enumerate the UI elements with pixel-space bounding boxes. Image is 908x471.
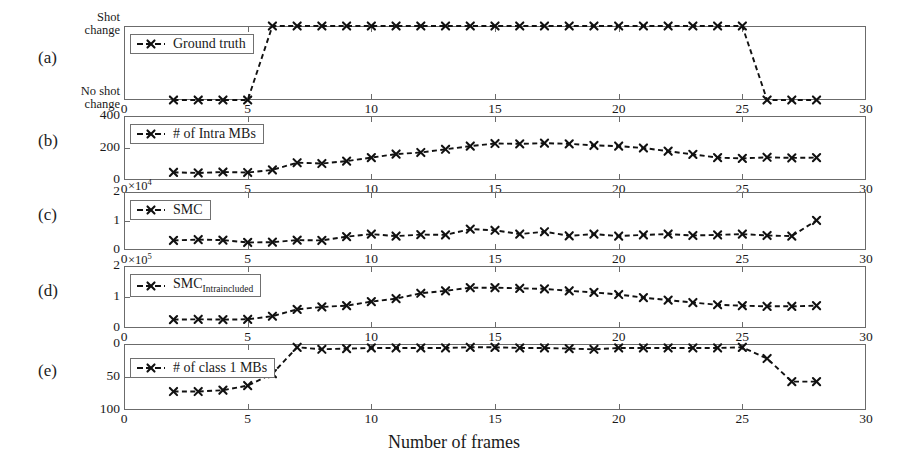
x-tickmark bbox=[248, 116, 249, 122]
legend-label-2: # of Intra MBs bbox=[173, 127, 256, 141]
x-tickmark bbox=[371, 266, 372, 272]
x-tickmark bbox=[248, 322, 249, 328]
legend-5[interactable]: # of class 1 MBs bbox=[130, 358, 275, 378]
panel-letter-4: (d) bbox=[38, 281, 58, 301]
x-tick-label-3-0: 0 bbox=[121, 252, 128, 266]
y-tickmark bbox=[124, 148, 130, 149]
x-tickmark bbox=[619, 244, 620, 250]
panel-letter-3: (c) bbox=[38, 205, 57, 225]
y-axis-multiplier-4: ×105 bbox=[128, 252, 152, 267]
x-tickmark bbox=[495, 192, 496, 198]
legend-label-subscript: Intraincluded bbox=[203, 284, 254, 294]
x-tick-label-4-0: 0 bbox=[121, 330, 128, 344]
y-axis-multiplier-3: ×104 bbox=[128, 178, 152, 193]
x-tickmark bbox=[742, 322, 743, 328]
figure-container: (a)No shotchangeShotchange051015202530Gr… bbox=[0, 0, 908, 471]
y-tick-label-5-2: 100 bbox=[100, 402, 120, 416]
x-tickmark bbox=[495, 322, 496, 328]
x-tickmark bbox=[371, 192, 372, 198]
x-tick-label-4-4: 20 bbox=[612, 330, 626, 344]
x-tick-label-1-6: 30 bbox=[859, 102, 873, 116]
x-tickmark bbox=[619, 26, 620, 32]
legend-3[interactable]: SMC bbox=[130, 200, 211, 220]
x-tickmark bbox=[742, 26, 743, 32]
legend-1[interactable]: Ground truth bbox=[130, 34, 254, 54]
x-tickmark bbox=[371, 94, 372, 100]
legend-4[interactable]: SMCIntraincluded bbox=[130, 274, 261, 297]
x-tick-label-5-6: 30 bbox=[859, 412, 873, 426]
x-tickmark bbox=[619, 344, 620, 350]
x-tickmark bbox=[371, 174, 372, 180]
x-tick-label-1-5: 25 bbox=[736, 102, 750, 116]
y-tickmark bbox=[124, 221, 130, 222]
x-tickmark bbox=[248, 344, 249, 350]
legend-label-4: SMCIntraincluded bbox=[173, 277, 253, 294]
x-tick-label-4-5: 25 bbox=[736, 330, 750, 344]
y-tick-label-4-1: 1 bbox=[113, 289, 120, 303]
x-tickmark bbox=[619, 192, 620, 198]
legend-line-sample-icon bbox=[136, 280, 166, 292]
x-tickmark bbox=[248, 174, 249, 180]
x-axis-label: Number of frames bbox=[0, 432, 908, 453]
x-tickmark bbox=[495, 174, 496, 180]
x-tick-label-4-6: 30 bbox=[859, 330, 873, 344]
legend-line-sample-icon bbox=[136, 204, 166, 216]
x-tickmark bbox=[742, 174, 743, 180]
x-tick-label-3-6: 30 bbox=[859, 252, 873, 266]
x-tickmark bbox=[371, 344, 372, 350]
x-tickmark bbox=[371, 404, 372, 410]
legend-label-3: SMC bbox=[173, 203, 203, 217]
x-tickmark bbox=[619, 404, 620, 410]
legend-2[interactable]: # of Intra MBs bbox=[130, 124, 264, 144]
x-tickmark bbox=[619, 174, 620, 180]
x-tick-label-3-1: 5 bbox=[244, 252, 251, 266]
x-tickmark bbox=[742, 266, 743, 272]
x-tick-label-5-1: 5 bbox=[244, 412, 251, 426]
x-tick-label-1-4: 20 bbox=[612, 102, 626, 116]
x-tick-label-4-1: 5 bbox=[244, 330, 251, 344]
panel-letter-1: (a) bbox=[38, 48, 57, 68]
x-tick-label-5-3: 15 bbox=[488, 412, 502, 426]
x-tickmark bbox=[742, 116, 743, 122]
legend-label-base: SMC bbox=[173, 276, 203, 291]
x-tickmark bbox=[248, 266, 249, 272]
legend-line-sample-icon bbox=[136, 38, 166, 50]
x-tickmark bbox=[248, 404, 249, 410]
y-tick-label-3-0: 0 bbox=[113, 242, 120, 256]
x-tick-label-4-2: 10 bbox=[365, 330, 379, 344]
legend-line-sample-icon bbox=[136, 362, 166, 374]
x-tick-label-3-3: 15 bbox=[488, 252, 502, 266]
legend-line-sample-icon bbox=[136, 128, 166, 140]
x-tickmark bbox=[742, 344, 743, 350]
x-tickmark bbox=[495, 244, 496, 250]
x-tickmark bbox=[248, 26, 249, 32]
x-tickmark bbox=[742, 244, 743, 250]
x-tickmark bbox=[371, 244, 372, 250]
x-tickmark bbox=[495, 26, 496, 32]
x-tickmark bbox=[619, 322, 620, 328]
y-tick-label-3-1: 1 bbox=[113, 213, 120, 227]
y-tick-label-1-1: Shotchange bbox=[50, 11, 120, 37]
x-tickmark bbox=[495, 344, 496, 350]
x-tickmark bbox=[495, 404, 496, 410]
x-tick-label-1-1: 5 bbox=[244, 102, 251, 116]
x-tick-label-1-2: 10 bbox=[365, 102, 379, 116]
panel-letter-5: (e) bbox=[38, 361, 57, 381]
x-tickmark bbox=[371, 116, 372, 122]
x-tick-label-1-0: 0 bbox=[121, 102, 128, 116]
x-tickmark bbox=[371, 322, 372, 328]
x-tickmark bbox=[742, 94, 743, 100]
x-tickmark bbox=[619, 94, 620, 100]
x-tickmark bbox=[248, 94, 249, 100]
x-tick-label-3-2: 10 bbox=[365, 252, 379, 266]
panel-letter-2: (b) bbox=[38, 131, 58, 151]
y-tick-label-4-0: 0 bbox=[113, 320, 120, 334]
x-tick-label-5-0: 0 bbox=[121, 412, 128, 426]
y-tick-label-2-1: 200 bbox=[100, 140, 120, 154]
x-tickmark bbox=[619, 116, 620, 122]
y-tick-label-2-2: 400 bbox=[100, 108, 120, 122]
x-tick-label-5-5: 25 bbox=[736, 412, 750, 426]
x-tickmark bbox=[248, 192, 249, 198]
x-tickmark bbox=[742, 404, 743, 410]
y-tick-label-3-2: 2 bbox=[113, 184, 120, 198]
